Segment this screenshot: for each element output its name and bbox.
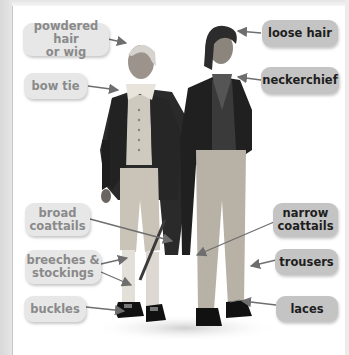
figure-right-man [180, 26, 252, 326]
arrow-trousers [251, 260, 276, 266]
label-text-line1: powdered hair [23, 20, 109, 46]
label-text-line2: coattails [278, 220, 334, 233]
label-powdered-hair-or-wig: powdered hair or wig [23, 23, 109, 56]
label-narrow-coattails: narrow coattails [273, 203, 338, 237]
arrow-neckerchief [238, 77, 261, 80]
label-loose-hair: loose hair [262, 20, 338, 47]
label-trousers: trousers [275, 249, 338, 275]
figure-left-gentleman [100, 45, 188, 322]
label-neckerchief: neckerchief [261, 67, 339, 94]
label-text: buckles [30, 303, 79, 316]
label-text: neckerchief [262, 74, 337, 87]
buckle-left [124, 304, 132, 308]
label-text-line2: or wig [46, 46, 86, 59]
label-buckles: buckles [24, 296, 86, 322]
arrow-bow-tie [88, 86, 118, 90]
label-breeches-and-stockings: breeches & stockings [25, 250, 101, 284]
arrow-loose-hair [238, 31, 261, 33]
label-broad-coattails: broad coattails [25, 203, 90, 236]
buckle-right [150, 307, 158, 311]
arrow-powdered-hair [108, 39, 126, 43]
label-text: bow tie [32, 80, 80, 93]
label-text-line1: broad [39, 207, 77, 220]
label-bow-tie: bow tie [24, 73, 87, 99]
label-text-line2: coattails [30, 220, 86, 233]
label-text-line2: stockings [32, 267, 94, 280]
label-text: trousers [279, 256, 333, 269]
label-laces: laces [276, 296, 338, 322]
label-text: laces [290, 303, 323, 316]
label-text: loose hair [268, 27, 332, 40]
ground-shadow [90, 314, 280, 342]
